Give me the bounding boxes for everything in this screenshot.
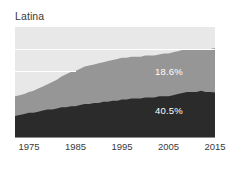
band-label-mid: 18.6% xyxy=(155,66,183,77)
x-tick-label: 1995 xyxy=(111,141,132,152)
x-tick-label: 1975 xyxy=(18,141,39,152)
plot-area xyxy=(15,27,215,137)
x-tick-label: 2005 xyxy=(158,141,179,152)
stacked-area-svg xyxy=(15,27,215,137)
x-axis-line xyxy=(15,137,215,138)
gridline-upper xyxy=(15,49,215,50)
chart-container: Latina 18.6% 40.5% 19751985199520052015 xyxy=(0,0,229,171)
x-axis-ticks: 19751985199520052015 xyxy=(15,141,215,157)
chart-title: Latina xyxy=(15,10,44,22)
band-label-dark: 40.5% xyxy=(155,105,183,116)
x-tick-label: 2015 xyxy=(204,141,225,152)
x-tick-label: 1985 xyxy=(65,141,86,152)
gridline-lower xyxy=(15,71,76,72)
